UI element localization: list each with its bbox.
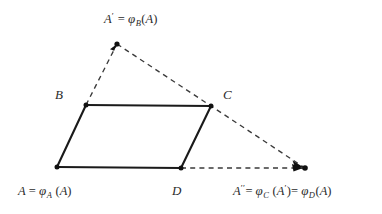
dashed-B-to-Aprime (86, 44, 117, 105)
label-a-double-prime-formula: A′′= φC (A′)= φD(A) (233, 184, 331, 199)
arrowheads (110, 44, 303, 172)
edge-C-D (181, 106, 211, 168)
label-a-prime-lead: A (104, 12, 112, 26)
parallelogram-ABCD (57, 105, 211, 168)
label-a-prime-arg-close: ) (153, 12, 157, 26)
label-a-arg-close: ) (67, 184, 71, 198)
label-a-equals-phi-a: A = φA (A) (18, 184, 71, 199)
label-vertex-d: D (172, 184, 181, 197)
point-A-prime (114, 41, 119, 46)
label-vertex-b: B (55, 88, 63, 101)
label-vertex-c: C (223, 88, 232, 101)
label-adp-arg2-close: ) (327, 184, 331, 198)
label-a-prime-equals: = (118, 12, 125, 26)
label-a-prime-arg: A (146, 12, 154, 26)
label-a-equals: = (29, 184, 36, 198)
edge-A-B (57, 105, 86, 167)
point-D (179, 166, 184, 171)
label-adp-lead: A (233, 184, 241, 198)
label-a-lead: A (18, 184, 26, 198)
point-C (209, 104, 214, 109)
edge-B-C (86, 105, 211, 106)
label-a-prime: A′ = φB(A) (104, 12, 157, 27)
label-adp-equals-2: = (291, 184, 298, 198)
geometry-figure (0, 0, 382, 214)
edge-D-A (57, 167, 181, 168)
label-adp-phi-1: φ (256, 183, 263, 198)
point-B (84, 103, 89, 108)
diagram-canvas: A′ = φB(A) B C D A = φA (A) A′′= φC (A′)… (0, 0, 382, 214)
point-A (55, 165, 60, 170)
point-A-double-prime (302, 165, 308, 171)
